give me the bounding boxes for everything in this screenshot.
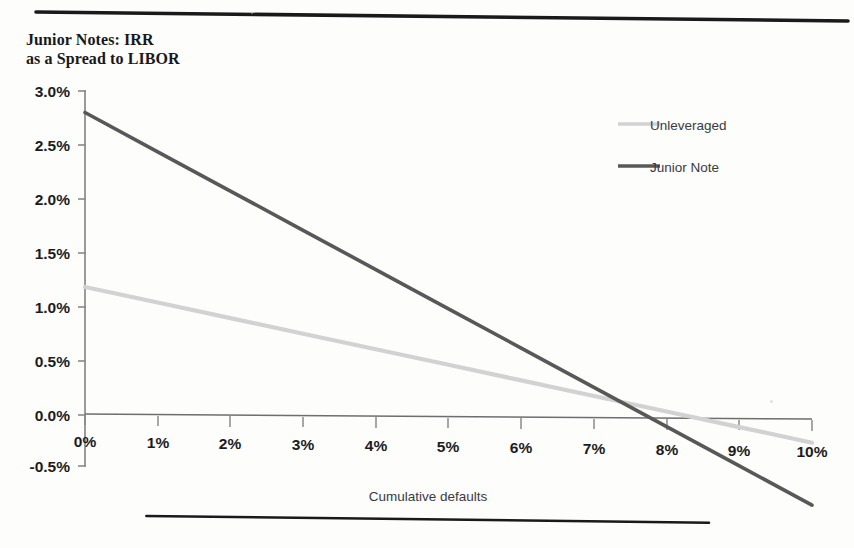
- legend: Unleveraged Junior Note: [618, 118, 727, 175]
- x-tick-label: 6%: [510, 439, 533, 456]
- legend-label: Junior Note: [650, 160, 719, 175]
- x-tick-label: 0%: [74, 433, 97, 450]
- y-tick-label: 3.0%: [35, 83, 71, 100]
- x-tick-label: 8%: [656, 441, 679, 458]
- y-tick-label: 0.5%: [35, 353, 71, 370]
- figure-page: Junior Notes: IRRas a Spread to LIBOR 3.…: [0, 0, 854, 548]
- x-axis-title: Cumulative defaults: [369, 489, 488, 504]
- x-tick-label: 2%: [219, 435, 242, 452]
- x-tick-label: 10%: [796, 443, 827, 460]
- y-tick-label: 2.0%: [35, 191, 71, 208]
- y-tick-label: 1.5%: [35, 245, 71, 262]
- y-tick-label: -0.5%: [30, 458, 71, 475]
- legend-item-unleveraged: Unleveraged: [618, 118, 727, 133]
- x-tick-label: 4%: [365, 437, 388, 454]
- y-tick-label: 2.5%: [35, 137, 71, 154]
- y-tick-label: 0.0%: [35, 407, 71, 424]
- x-tick-label: 1%: [147, 434, 170, 451]
- line-chart: 3.0% 2.5% 2.0% 1.5% 1.0% 0.5% 0.0% -0.5%…: [0, 0, 854, 548]
- x-tick-label: 3%: [292, 436, 315, 453]
- legend-label: Unleveraged: [650, 118, 727, 133]
- x-tick-label: 9%: [728, 442, 751, 459]
- y-tick-label: 1.0%: [35, 299, 71, 316]
- x-tick-label: 5%: [437, 438, 460, 455]
- legend-item-junior-note: Junior Note: [618, 160, 719, 175]
- x-tick-labels: 0% 1% 2% 3% 4% 5% 6% 7% 8% 9% 10%: [74, 433, 828, 460]
- x-tick-label: 7%: [583, 440, 606, 457]
- y-tick-labels: 3.0% 2.5% 2.0% 1.5% 1.0% 0.5% 0.0% -0.5%: [30, 83, 71, 475]
